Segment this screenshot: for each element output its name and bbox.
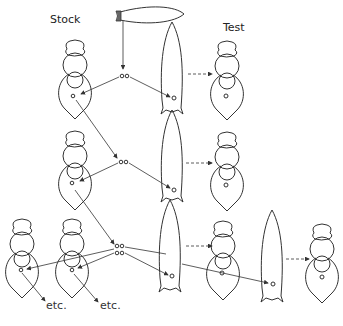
stock-host-row1 — [59, 40, 92, 119]
test-result-row3b — [306, 224, 339, 303]
stock-host-row2 — [59, 131, 92, 210]
elongated-host-row2 — [161, 110, 183, 202]
test-result-row1 — [211, 41, 244, 120]
diagram-canvas — [0, 0, 343, 326]
cell-pair-row1 — [120, 74, 129, 78]
elongated-host-row3a — [159, 200, 181, 292]
test-result-row3a — [207, 221, 240, 300]
stock-host-row3a — [6, 219, 39, 298]
elongated-host-row1 — [161, 22, 183, 114]
test-result-row2 — [211, 132, 244, 211]
donor-worm — [116, 7, 184, 23]
elongated-host-row3b — [261, 210, 283, 302]
cell-quad-row3 — [115, 244, 124, 255]
cell-pair-row2 — [119, 160, 128, 164]
